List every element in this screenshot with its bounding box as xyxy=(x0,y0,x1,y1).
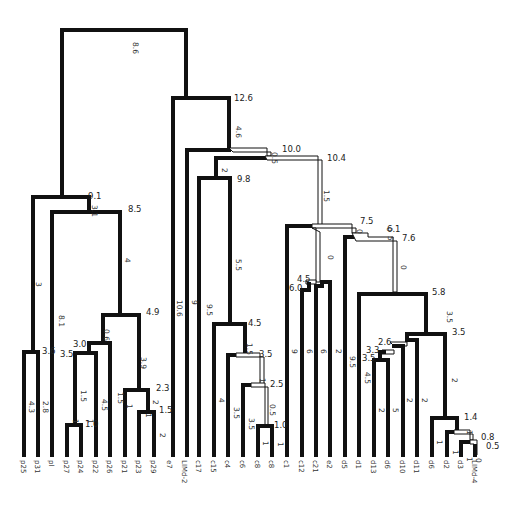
leaf-label-c4: c4 xyxy=(223,460,231,469)
branch-root xyxy=(62,30,186,193)
node-height-label: 3.6 xyxy=(42,346,56,356)
node-height-label: 2.5 xyxy=(270,379,284,389)
leaf-label-p22: p22 xyxy=(91,460,99,473)
branch-length-label: 9.5 xyxy=(348,356,357,368)
leaf-label-limd4: LIMd-4 xyxy=(470,460,478,484)
branch-length-label: 1.5 xyxy=(245,343,254,355)
dendrogram: 9.18.54.93.63.03.52.31.51.012.610.010.49… xyxy=(0,0,529,505)
branch-length-label: 3.5 xyxy=(232,407,241,419)
node-height-label: 3.0 xyxy=(73,339,87,349)
leaf-label-d1: d1 xyxy=(354,460,362,469)
branch-length-label: 0 xyxy=(326,255,335,260)
leaf-label-d3: d3 xyxy=(456,460,464,469)
branch-1-5 xyxy=(139,412,154,455)
branch-length-label: 1 xyxy=(71,419,80,424)
leaf-label-c6: c6 xyxy=(238,460,246,469)
node-height-label: 3.5 xyxy=(60,349,74,359)
branch-length-label: 0.6 xyxy=(102,329,111,341)
branch-0-c12-open xyxy=(312,228,320,282)
branch-length-label: 1 xyxy=(261,441,270,446)
branch-length-label: 1 xyxy=(435,440,444,445)
branch-1-0-p xyxy=(67,425,81,455)
branch-3-5-d xyxy=(407,334,445,416)
leaf-label-d6a: d6 xyxy=(383,460,391,469)
node-height-label: 2.6 xyxy=(378,337,392,347)
leaf-label-limd2: LIMd-2 xyxy=(180,460,188,483)
leaf-label-p27: p27 xyxy=(62,460,70,473)
node-height-label: 12.6 xyxy=(234,93,253,103)
branch-length-label: 2 xyxy=(377,408,386,413)
branch-length-label: 0 xyxy=(399,265,408,270)
leaf-label-c1: c1 xyxy=(282,460,290,468)
node-height-label: 9.1 xyxy=(88,191,102,201)
leaf-label-p25: p25 xyxy=(19,460,27,473)
branch-length-label: 2 xyxy=(450,378,459,383)
leaf-label-c21: c21 xyxy=(311,460,319,473)
leaf-label-c12: c12 xyxy=(297,460,305,473)
branch-length-label: 4.5 xyxy=(100,399,109,411)
branch-length-label: 0.5 xyxy=(270,152,279,164)
node-height-label: 7.6 xyxy=(402,233,416,243)
branch-length-label: 1.5 xyxy=(116,392,125,404)
branch-length-label: 2 xyxy=(220,168,229,173)
branch-length-label: 8.6 xyxy=(131,42,140,54)
branch-2-3 xyxy=(125,390,148,455)
branch-d10 xyxy=(394,346,403,455)
branch-length-label: 1.5 xyxy=(322,190,331,202)
branch-length-label: 0 xyxy=(355,229,364,234)
node-height-label: 7.5 xyxy=(360,216,374,226)
node-height-label: 3.5 xyxy=(362,353,376,363)
leaf-label-c15: c15 xyxy=(209,460,217,473)
leaf-label-p26: p26 xyxy=(105,460,113,474)
leaf-label-d13: d13 xyxy=(369,460,377,473)
branch-length-label: 2 xyxy=(405,398,414,403)
node-height-label: 3.5 xyxy=(259,349,273,359)
node-height-label: 4.5 xyxy=(248,318,262,328)
branch-9-1 xyxy=(33,197,89,352)
leaf-label-e7: e7 xyxy=(165,460,173,469)
branch-length-label: 0.5 xyxy=(268,404,277,416)
node-height-label: 2.3 xyxy=(156,383,170,393)
branch-length-label: 2 xyxy=(151,400,160,405)
branch-length-label: 2 xyxy=(158,433,167,438)
leaf-label-p23: p23 xyxy=(134,460,142,473)
branch-length-label: 6 xyxy=(319,349,328,354)
node-height-label: 1.4 xyxy=(464,412,478,422)
node-height-label: 5.8 xyxy=(432,287,446,297)
node-height-label: 6.0 xyxy=(289,283,303,293)
branch-c1-join xyxy=(287,226,312,455)
branch-length-label: 4.6 xyxy=(234,126,243,138)
leaf-label-p21: p21 xyxy=(120,460,128,473)
branch-length-label: 5 xyxy=(391,408,400,413)
branch-length-label: 4.3 xyxy=(27,401,36,413)
branch-length-label: 1 xyxy=(144,413,153,418)
branch-length-label: 1 xyxy=(276,442,285,447)
branch-length-label: 5 xyxy=(386,236,395,241)
branch-length-label: 8.1 xyxy=(57,315,66,327)
branch-6-0 xyxy=(302,284,309,455)
node-height-label: 9.8 xyxy=(237,174,251,184)
branch-length-label: 1.5 xyxy=(79,390,88,402)
branch-length-label: 4 xyxy=(123,258,132,263)
branch-length-label: 4.5 xyxy=(363,372,372,384)
branch-3-5-c xyxy=(228,355,236,455)
node-height-label: 1.0 xyxy=(274,420,288,430)
branch-length-label: 2 xyxy=(420,398,429,403)
branch-length-label: 9 xyxy=(290,349,299,354)
node-height-label: 0.5 xyxy=(486,441,500,451)
branch-6-1-join xyxy=(345,237,365,455)
node-height-label: 8.5 xyxy=(128,204,142,214)
node-height-label: 1.5 xyxy=(159,405,173,415)
branch-length-label: 1 xyxy=(86,419,95,424)
branch-length-label: 6 xyxy=(305,349,314,354)
branch-length-label: 9.5 xyxy=(205,304,214,316)
leaf-label-p31: p31 xyxy=(33,460,41,473)
branch-length-label: 1 xyxy=(258,378,267,383)
branch-length-label: 1 xyxy=(125,404,134,409)
leaf-labels: p25p31plp27p24p22p26p21p23p29e7LIMd-2c17… xyxy=(19,460,478,484)
leaf-label-d5: d5 xyxy=(340,460,348,469)
node-height-label: 4.9 xyxy=(146,307,160,317)
leaf-label-c8a: c8 xyxy=(253,460,261,468)
branch-length-label: 9 xyxy=(190,300,199,305)
node-height-label: 3.5 xyxy=(452,327,466,337)
